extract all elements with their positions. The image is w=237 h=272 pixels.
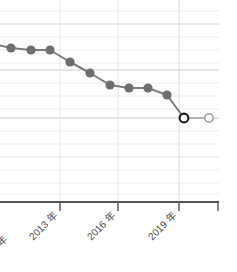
data-point[interactable] — [105, 80, 114, 89]
x-tick-label-2016: 2016 年 — [84, 209, 117, 242]
chart-canvas: 2013 年 2016 年 2019 年 年 — [0, 0, 237, 272]
gridlines-horizontal — [0, 11, 219, 194]
data-point[interactable] — [65, 57, 74, 66]
x-tick-label-partial: 年 — [0, 233, 9, 249]
x-tick-label-2013: 2013 年 — [26, 209, 59, 242]
data-point[interactable] — [26, 45, 35, 54]
endpoint-secondary-marker[interactable] — [205, 114, 213, 122]
series-observed-line — [0, 44, 184, 118]
series-observed-markers — [6, 43, 171, 99]
data-point[interactable] — [45, 45, 54, 54]
data-point[interactable] — [162, 90, 171, 99]
endpoint-highlight-marker[interactable] — [180, 114, 189, 123]
data-point[interactable] — [85, 68, 94, 77]
line-chart-figure: 2013 年 2016 年 2019 年 年 — [0, 0, 237, 272]
x-tick-label-2019: 2019 年 — [145, 209, 178, 242]
gridlines-vertical — [60, 0, 179, 201]
data-point[interactable] — [6, 43, 15, 52]
data-point[interactable] — [143, 83, 152, 92]
x-axis-tick-labels: 2013 年 2016 年 2019 年 年 — [0, 209, 178, 249]
data-point[interactable] — [124, 83, 133, 92]
